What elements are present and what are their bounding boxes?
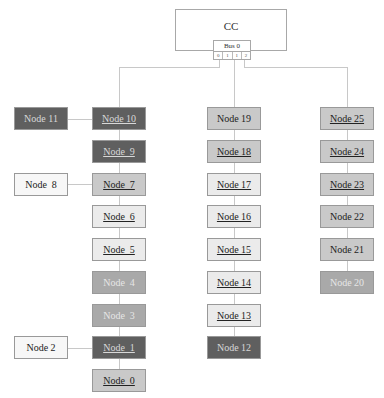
node-box[interactable]: Node 16 bbox=[207, 205, 261, 228]
node-label: Node 6 bbox=[103, 211, 135, 222]
node-label: Node 0 bbox=[103, 375, 135, 386]
node-label: Node 18 bbox=[217, 146, 251, 157]
node-box[interactable]: Node 17 bbox=[207, 173, 261, 196]
connector-line bbox=[219, 60, 220, 68]
connector-line bbox=[244, 67, 347, 68]
node-label: Node 23 bbox=[330, 179, 364, 190]
node-label: Node 19 bbox=[217, 113, 251, 124]
bus-port: 0 bbox=[214, 52, 223, 59]
node-label: Node 17 bbox=[217, 179, 251, 190]
node-box[interactable]: Node 0 bbox=[92, 369, 146, 392]
node-box[interactable]: Node 11 bbox=[14, 107, 68, 130]
node-label: Node 12 bbox=[217, 342, 251, 353]
node-box[interactable]: Node 3 bbox=[92, 304, 146, 327]
node-label: Node 14 bbox=[217, 277, 251, 288]
bus-ports: 0 1 1 2 bbox=[214, 51, 250, 59]
node-label: Node 22 bbox=[330, 211, 364, 222]
node-label: Node 13 bbox=[217, 310, 251, 321]
node-box[interactable]: Node 22 bbox=[320, 205, 374, 228]
connector-line bbox=[234, 60, 235, 107]
node-label: Node 20 bbox=[330, 277, 364, 288]
bus-port: 2 bbox=[242, 52, 250, 59]
node-box[interactable]: Node 6 bbox=[92, 205, 146, 228]
node-box[interactable]: Node 2 bbox=[14, 336, 68, 359]
node-box[interactable]: Node 24 bbox=[320, 140, 374, 163]
bus-label: Bus 0 bbox=[214, 42, 250, 50]
node-label: Node 8 bbox=[25, 179, 57, 190]
node-label: Node 16 bbox=[217, 211, 251, 222]
node-box[interactable]: Node 9 bbox=[92, 140, 146, 163]
node-box[interactable]: Node 1 bbox=[92, 336, 146, 359]
node-label: Node 9 bbox=[103, 146, 135, 157]
node-box[interactable]: Node 15 bbox=[207, 238, 261, 261]
bus-box: Bus 0 0 1 1 2 bbox=[213, 40, 251, 60]
node-box[interactable]: Node 19 bbox=[207, 107, 261, 130]
node-box[interactable]: Node 21 bbox=[320, 238, 374, 261]
connector-line bbox=[68, 119, 92, 120]
node-label: Node 1 bbox=[103, 342, 135, 353]
node-box[interactable]: Node 10 bbox=[92, 107, 146, 130]
controller-label: CC bbox=[176, 20, 286, 32]
connector-line bbox=[347, 67, 348, 107]
node-box[interactable]: Node 5 bbox=[92, 238, 146, 261]
node-label: Node 4 bbox=[103, 277, 135, 288]
node-label: Node 3 bbox=[103, 310, 135, 321]
node-box[interactable]: Node 7 bbox=[92, 173, 146, 196]
bus-port: 1 bbox=[223, 52, 232, 59]
node-box[interactable]: Node 25 bbox=[320, 107, 374, 130]
node-box[interactable]: Node 23 bbox=[320, 173, 374, 196]
node-label: Node 24 bbox=[330, 146, 364, 157]
bus-port: 1 bbox=[233, 52, 242, 59]
node-box[interactable]: Node 4 bbox=[92, 271, 146, 294]
node-box[interactable]: Node 8 bbox=[14, 173, 68, 196]
node-label: Node 15 bbox=[217, 244, 251, 255]
node-label: Node 25 bbox=[330, 113, 364, 124]
node-label: Node 5 bbox=[103, 244, 135, 255]
node-box[interactable]: Node 12 bbox=[207, 336, 261, 359]
node-label: Node 21 bbox=[330, 244, 364, 255]
node-box[interactable]: Node 14 bbox=[207, 271, 261, 294]
node-label: Node 10 bbox=[102, 113, 136, 124]
node-box[interactable]: Node 20 bbox=[320, 271, 374, 294]
connector-line bbox=[119, 67, 120, 107]
connector-line bbox=[119, 67, 219, 68]
connector-line bbox=[68, 184, 92, 185]
node-box[interactable]: Node 18 bbox=[207, 140, 261, 163]
connector-line bbox=[68, 348, 92, 349]
node-label: Node 7 bbox=[103, 179, 135, 190]
node-label: Node 11 bbox=[24, 113, 58, 124]
node-box[interactable]: Node 13 bbox=[207, 304, 261, 327]
node-label: Node 2 bbox=[26, 342, 55, 353]
